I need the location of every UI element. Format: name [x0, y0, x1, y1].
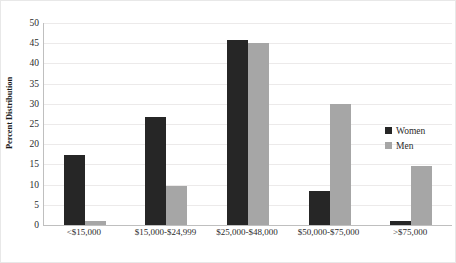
legend-swatch-icon	[385, 142, 392, 149]
x-axis-tick-label: $15,000-$24,999	[125, 227, 207, 237]
bar-men[interactable]	[166, 186, 187, 225]
y-axis-tick-45: 45	[15, 38, 39, 48]
y-axis-title-label: Percent Distribution	[4, 77, 14, 149]
x-axis-tick-label: >$75,000	[369, 227, 451, 237]
y-axis-tick-30: 30	[15, 99, 39, 109]
bar-group	[207, 23, 289, 225]
y-axis-tick-15: 15	[15, 159, 39, 169]
legend-swatch-icon	[385, 127, 392, 134]
x-axis-tick-label: $50,000-$75,000	[288, 227, 370, 237]
x-axis-tick-labels: <$15,000$15,000-$24,999$25,000-$48,000$5…	[43, 227, 451, 237]
y-axis-tick-0: 0	[15, 220, 39, 230]
bar-women[interactable]	[145, 117, 166, 225]
legend-item-women[interactable]: Women	[385, 123, 425, 138]
bar-group	[126, 23, 208, 225]
bar-men[interactable]	[330, 104, 351, 225]
bar-group	[44, 23, 126, 225]
y-axis-tick-50: 50	[15, 18, 39, 28]
x-axis-tick-label: <$15,000	[43, 227, 125, 237]
bar-group	[289, 23, 371, 225]
bar-men[interactable]	[411, 166, 432, 225]
bar-women[interactable]	[309, 191, 330, 225]
bar-women[interactable]	[64, 155, 85, 225]
bar-chart: Percent Distribution 5045403530252015105…	[0, 0, 456, 263]
y-axis-tick-35: 35	[15, 79, 39, 89]
y-axis-tick-10: 10	[15, 180, 39, 190]
x-axis-tick-label: $25,000-$48,000	[206, 227, 288, 237]
chart-legend: WomenMen	[385, 123, 425, 153]
legend-label: Men	[396, 141, 413, 151]
y-axis-title: Percent Distribution	[1, 1, 17, 225]
legend-label: Women	[396, 126, 425, 136]
y-axis-tick-20: 20	[15, 139, 39, 149]
bar-women[interactable]	[390, 221, 411, 225]
y-axis-tick-40: 40	[15, 58, 39, 68]
y-axis-tick-25: 25	[15, 119, 39, 129]
y-axis-tick-5: 5	[15, 200, 39, 210]
bar-women[interactable]	[227, 40, 248, 225]
bar-men[interactable]	[248, 43, 269, 225]
bar-men[interactable]	[85, 221, 106, 225]
legend-item-men[interactable]: Men	[385, 138, 425, 153]
